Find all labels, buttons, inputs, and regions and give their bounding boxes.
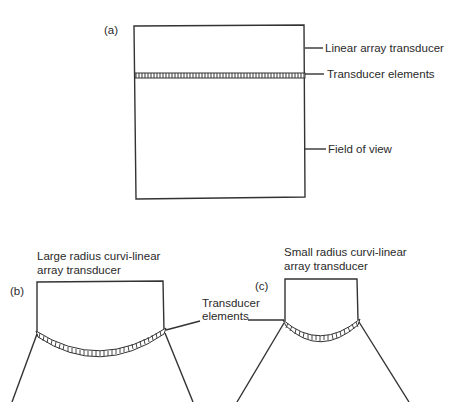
panel-b-title-line1: Large radius curvi-linear <box>37 250 161 262</box>
panel-c-label: (c) <box>255 280 269 292</box>
panel-a-label: (a) <box>104 24 118 36</box>
panel-c-title-line1: Small radius curvi-linear <box>284 246 407 258</box>
linear-transducer-outline <box>134 25 305 199</box>
small-radius-fov-right <box>359 322 409 402</box>
label-linear-array-transducer: Linear array transducer <box>325 42 444 54</box>
label-field-of-view: Field of view <box>328 143 393 155</box>
ultrasound-transducer-diagram: (a) Linear array transducer Transducer e… <box>0 0 465 402</box>
panel-b-label: (b) <box>10 285 24 297</box>
panel-a: (a) Linear array transducer Transducer e… <box>104 24 444 199</box>
panel-c-title-line2: array transducer <box>284 260 368 272</box>
shared-elements-annotation: Transducer elements <box>202 297 260 322</box>
small-radius-fov-left <box>237 323 284 402</box>
small-radius-element-band <box>283 319 360 342</box>
leader-elements-b <box>166 321 200 330</box>
label-transducer-elements-line1: Transducer <box>202 297 260 309</box>
panel-b-title-line2: array transducer <box>37 264 121 276</box>
large-radius-fov-right <box>165 333 193 402</box>
panel-b: Large radius curvi-linear array transduc… <box>10 250 200 402</box>
panel-c: Small radius curvi-linear array transduc… <box>237 246 409 402</box>
linear-transducer-elements <box>135 73 305 78</box>
large-radius-fov-left <box>12 334 37 402</box>
small-radius-transducer-body <box>285 279 358 321</box>
label-transducer-elements-line2: elements <box>202 310 249 322</box>
large-radius-transducer-body <box>37 281 164 333</box>
label-transducer-elements-a: Transducer elements <box>327 68 435 80</box>
